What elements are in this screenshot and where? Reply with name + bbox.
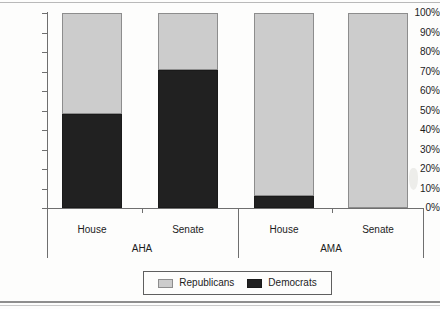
bar-segment-republicans <box>62 13 122 114</box>
y-tick-mark <box>42 91 47 92</box>
bar-segment-democrats <box>158 70 218 208</box>
x-axis-baseline <box>47 208 424 209</box>
bar-ama-house <box>254 13 314 208</box>
y-tick-mark <box>42 130 47 131</box>
bar-ama-senate <box>348 13 408 208</box>
legend-item-democrats: Democrats <box>247 278 316 288</box>
y-tick-mark <box>42 13 47 14</box>
y-tick-mark <box>42 150 47 151</box>
bar-segment-democrats <box>254 196 314 208</box>
scanned-page: 100%90%80%70%60%50%40%30%20%10%0% HouseS… <box>0 0 440 309</box>
y-tick-mark <box>42 72 47 73</box>
bar-aha-house <box>62 13 122 208</box>
y-tick-mark <box>42 169 47 170</box>
stacked-bar-chart: 100%90%80%70%60%50%40%30%20%10%0% HouseS… <box>0 0 440 309</box>
bar-segment-republicans <box>348 13 408 208</box>
y-tick-mark <box>42 189 47 190</box>
group-tick-aha <box>142 209 143 213</box>
group-label-aha: AHA <box>82 243 202 254</box>
bar-segment-democrats <box>62 114 122 208</box>
bar-segment-republicans <box>254 13 314 196</box>
legend-item-republicans: Republicans <box>158 278 234 288</box>
scan-artifact <box>409 168 418 190</box>
bar-aha-senate <box>158 13 218 208</box>
y-tick-mark <box>42 33 47 34</box>
y-tick-mark <box>42 52 47 53</box>
y-axis-line <box>47 12 48 209</box>
category-label-1: Senate <box>143 224 233 235</box>
category-label-3: Senate <box>333 224 423 235</box>
group-tick-ama <box>332 209 333 213</box>
group-label-ama: AMA <box>271 243 391 254</box>
group-separator-right <box>423 209 424 258</box>
legend-swatch-democrats <box>247 279 262 288</box>
group-separator-left <box>47 209 48 258</box>
legend-label-republicans: Republicans <box>179 278 234 288</box>
group-separator-middle <box>238 209 239 258</box>
bar-segment-republicans <box>158 13 218 70</box>
chart-legend: Republicans Democrats <box>143 271 332 295</box>
legend-swatch-republicans <box>158 279 173 288</box>
category-label-2: House <box>239 224 329 235</box>
y-tick-mark <box>42 111 47 112</box>
category-label-0: House <box>47 224 137 235</box>
legend-label-democrats: Democrats <box>268 278 316 288</box>
